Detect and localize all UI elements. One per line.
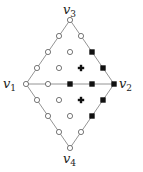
open-circle-marker	[56, 33, 61, 38]
rhombus-diagram: v1v2v3v4	[0, 0, 143, 172]
open-circle-marker	[56, 129, 61, 134]
filled-square-marker	[100, 65, 105, 70]
open-circle-marker	[34, 65, 39, 70]
open-circle-marker	[34, 97, 39, 102]
filled-square-marker	[89, 113, 94, 118]
open-circle-marker	[78, 129, 83, 134]
open-circle-marker	[67, 49, 72, 54]
open-circle-marker	[78, 33, 83, 38]
plus-marker	[78, 65, 84, 71]
vertex-label-v4: v4	[63, 151, 76, 168]
open-circle-marker	[45, 81, 50, 86]
filled-square-marker	[89, 49, 94, 54]
filled-square-marker	[111, 81, 116, 86]
open-circle-marker	[56, 65, 61, 70]
open-circle-marker	[45, 49, 50, 54]
vertex-label-v1: v1	[3, 76, 16, 93]
filled-square-marker	[89, 81, 94, 86]
open-circle-marker	[23, 81, 28, 86]
plus-marker	[78, 97, 84, 103]
filled-square-marker	[67, 81, 72, 86]
vertex-label-v2: v2	[119, 76, 132, 93]
open-circle-marker	[45, 113, 50, 118]
open-circle-marker	[67, 113, 72, 118]
open-circle-marker	[56, 97, 61, 102]
filled-square-marker	[100, 97, 105, 102]
vertex-label-v3: v3	[63, 2, 76, 19]
open-circle-marker	[67, 145, 72, 150]
